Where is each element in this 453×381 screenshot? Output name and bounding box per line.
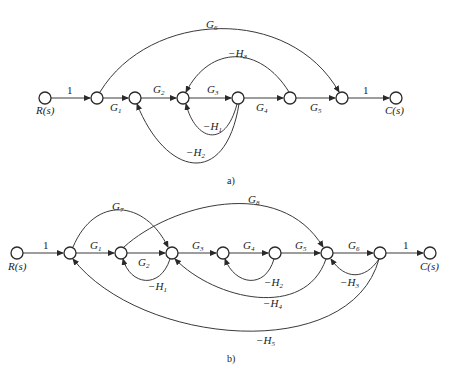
- label-b-h1: −H1: [148, 280, 167, 294]
- signal-flow-graphs: 1 1 R(s) C(s) G1 G2 G3 G4 G5 G6 −H3 −H1 …: [0, 0, 453, 381]
- label-a-h2: −H2: [186, 146, 205, 160]
- branch-b-g7: [73, 210, 168, 247]
- label-b-h3: −H3: [340, 276, 359, 290]
- node-a-6: [336, 92, 348, 104]
- label-b-h2: −H2: [264, 276, 283, 290]
- label-b-g7: G7: [112, 200, 124, 214]
- label-b-g5: G5: [295, 239, 307, 253]
- label-b-g8: G8: [248, 193, 260, 207]
- node-a-3: [177, 92, 189, 104]
- branch-b-h4: [175, 259, 326, 298]
- node-a-5: [284, 92, 296, 104]
- branch-a-g6: [100, 29, 339, 92]
- label-b-h4: −H4: [263, 297, 282, 311]
- caption-b: b): [227, 353, 235, 365]
- branch-b-g8: [124, 204, 323, 247]
- node-b-3: [166, 247, 178, 259]
- label-a-g3: G3: [207, 83, 219, 97]
- diagram-a: 1 1 R(s) C(s) G1 G2 G3 G4 G5 G6 −H3 −H1 …: [35, 18, 404, 187]
- label-b-g3: G3: [192, 239, 204, 253]
- node-b-6: [321, 247, 333, 259]
- label-a-g5: G5: [310, 101, 322, 115]
- node-b-1: [64, 247, 76, 259]
- label-a-g1: G1: [110, 101, 121, 115]
- node-b-output: [424, 247, 436, 259]
- label-b-output: C(s): [420, 260, 439, 273]
- label-b-1-out: 1: [403, 239, 409, 251]
- node-b-input: [11, 247, 23, 259]
- node-a-4: [232, 92, 244, 104]
- label-a-input: R(s): [35, 104, 55, 117]
- node-b-7: [374, 247, 386, 259]
- node-a-2: [129, 92, 141, 104]
- label-b-g1: G1: [90, 239, 101, 253]
- node-a-output: [390, 92, 402, 104]
- label-b-input: R(s): [7, 260, 27, 273]
- node-b-5: [269, 247, 281, 259]
- label-b-1-in: 1: [43, 239, 49, 251]
- branch-b-h3: [331, 259, 379, 275]
- label-b-h5: −H5: [256, 334, 275, 348]
- diagram-b: 1 1 R(s) C(s) G1 G2 G3 G4 G5 G6 G7 G8 −H…: [7, 193, 439, 365]
- label-a-h1: −H1: [203, 120, 222, 134]
- label-a-1-in: 1: [67, 84, 73, 96]
- node-b-4: [217, 247, 229, 259]
- node-a-input: [39, 92, 51, 104]
- branch-a-h3: [186, 57, 289, 92]
- branch-b-h5: [73, 259, 379, 331]
- node-b-2: [115, 247, 127, 259]
- node-a-1: [91, 92, 103, 104]
- label-b-g4: G4: [243, 239, 255, 253]
- label-a-g6: G6: [206, 18, 218, 32]
- caption-a: a): [227, 175, 235, 187]
- label-a-g4: G4: [256, 101, 268, 115]
- label-a-h3: −H3: [228, 47, 247, 61]
- label-a-1-out: 1: [363, 84, 369, 96]
- label-a-g2: G2: [153, 83, 165, 97]
- label-a-output: C(s): [385, 104, 404, 117]
- label-b-g2: G2: [138, 256, 150, 270]
- label-b-g6: G6: [348, 239, 360, 253]
